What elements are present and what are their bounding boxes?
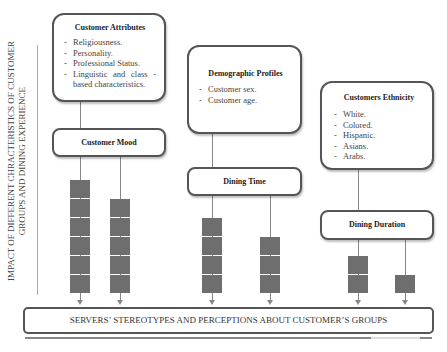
side-divider (37, 45, 38, 295)
arrow-down-icon (209, 300, 215, 305)
impact-square (260, 256, 280, 274)
impact-square (110, 199, 130, 217)
arrow-down-icon (355, 300, 361, 305)
list-item: Hispanic. (334, 130, 424, 141)
demographic-list: Customer sex. Customer age. (199, 84, 292, 105)
impact-square (202, 275, 222, 293)
list-item: Colored. (334, 120, 424, 131)
arrow-down-icon (117, 300, 123, 305)
list-item: White. (334, 109, 424, 120)
box-title: Demographic Profiles (199, 69, 292, 78)
impact-square (110, 275, 130, 293)
list-item: Customer sex. (199, 84, 292, 95)
arrow-down-icon (77, 300, 83, 305)
customer-attributes-box: Customer Attributes Religiousness. Perso… (52, 13, 166, 102)
impact-square (260, 237, 280, 255)
impact-square (70, 256, 90, 274)
impact-square (110, 218, 130, 236)
impact-square (202, 256, 222, 274)
impact-square (395, 275, 415, 293)
dining-duration-box: Dining Duration (320, 210, 434, 240)
list-item: Linguistic and class - based characteris… (64, 69, 156, 90)
customers-ethnicity-box: Customers Ethnicity White. Colored. Hisp… (320, 81, 434, 170)
arrow-down-icon (402, 300, 408, 305)
side-label-line1: IMPACT OF DIFFERENT CHRACTERISTICS OF CU… (6, 16, 17, 306)
impact-square (110, 237, 130, 255)
list-item: Professional Status. (64, 58, 156, 69)
impact-square (70, 218, 90, 236)
impact-square (348, 256, 368, 274)
box-title: Dining Time (189, 169, 300, 194)
box-title: Customer Mood (54, 130, 164, 155)
list-item: Asians. (334, 141, 424, 152)
impact-square (202, 218, 222, 236)
ethnicity-list: White. Colored. Hispanic. Asians. Arabs. (334, 109, 424, 162)
side-label-line2: GROUPS AND DINING EXPERIENCE (17, 16, 28, 306)
customer-mood-box: Customer Mood (52, 128, 166, 157)
box-title: Customer Attributes (64, 23, 156, 32)
side-label: IMPACT OF DIFFERENT CHRACTERISTICS OF CU… (6, 16, 28, 306)
servers-stereotypes-box: SERVERS’ STEREOTYPES AND PERCEPTIONS ABO… (23, 307, 434, 334)
demographic-profiles-box: Demographic Profiles Customer sex. Custo… (187, 45, 302, 134)
impact-square (70, 237, 90, 255)
impact-square (70, 180, 90, 198)
box-title: Customers Ethnicity (334, 93, 424, 102)
impact-square (110, 256, 130, 274)
attribute-list: Religiousness. Personality. Professional… (64, 37, 156, 90)
list-item: Religiousness. (64, 37, 156, 48)
impact-square (260, 275, 280, 293)
list-item: Customer age. (199, 95, 292, 106)
impact-square (70, 275, 90, 293)
bottom-rule (25, 337, 432, 339)
list-item: Personality. (64, 48, 156, 59)
impact-square (70, 199, 90, 217)
arrow-down-icon (267, 300, 273, 305)
impact-square (202, 237, 222, 255)
dining-time-box: Dining Time (187, 167, 302, 196)
impact-square (348, 275, 368, 293)
list-item: Arabs. (334, 151, 424, 162)
box-title: Dining Duration (322, 212, 432, 238)
